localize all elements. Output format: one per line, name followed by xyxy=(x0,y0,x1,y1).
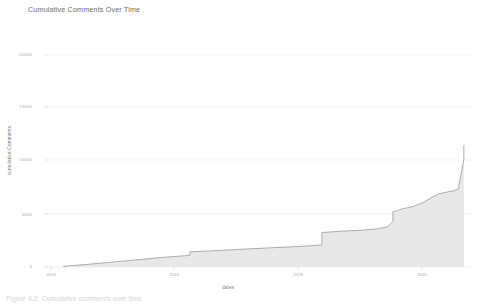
figure-caption: Figure 4.2: Cumulative comments over tim… xyxy=(6,295,142,304)
scan-artifact-dot xyxy=(296,71,297,72)
area-fill xyxy=(63,145,464,267)
figure-container: Cumulative Comments Over Time cumulative… xyxy=(0,0,491,304)
plot-area xyxy=(0,0,491,304)
